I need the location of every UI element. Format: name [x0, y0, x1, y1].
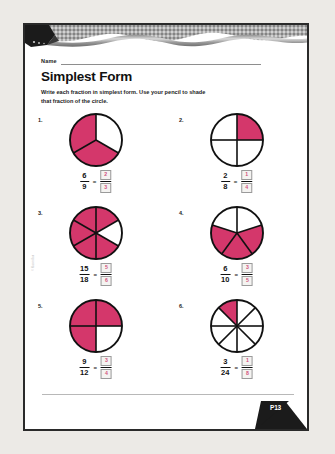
- answer-numerator-box[interactable]: 3: [101, 356, 112, 366]
- problem-5: 5. 9 12 = 3 4: [25, 295, 166, 388]
- answer-numerator-box[interactable]: 2: [100, 170, 111, 180]
- problem-2: 2. 2 8 = 1 4: [166, 109, 307, 202]
- given-denominator: 10: [220, 276, 230, 284]
- page-title: Simplest Form: [41, 69, 132, 84]
- answer-denominator-box[interactable]: 6: [101, 276, 112, 286]
- name-row: Name: [41, 57, 261, 65]
- fraction-circle-1[interactable]: [68, 112, 124, 172]
- given-fraction: 2 8: [221, 172, 230, 190]
- answer-numerator-box[interactable]: 3: [242, 263, 253, 273]
- given-numerator: 15: [79, 265, 89, 273]
- fraction-equation-4: 6 10 = 3 5: [220, 263, 253, 286]
- answer-numerator-box[interactable]: 1: [241, 170, 252, 180]
- equals-sign: =: [93, 365, 97, 371]
- instructions-text: Write each fraction in simplest form. Us…: [41, 88, 216, 105]
- answer-fraction: 3 5: [242, 263, 253, 286]
- copyright-text: © Macmillan: [32, 254, 35, 271]
- equals-sign: =: [93, 272, 97, 278]
- fraction-circle-4[interactable]: [209, 205, 265, 265]
- given-fraction: 9 12: [79, 358, 89, 376]
- problems-grid: 1. 6 9 = 2 3 2.: [25, 109, 307, 388]
- answer-numerator-box[interactable]: 5: [101, 263, 112, 273]
- page-number-label: P13: [270, 404, 281, 411]
- given-denominator: 12: [79, 369, 89, 377]
- problem-number: 6.: [179, 303, 184, 309]
- given-fraction: 3 24: [220, 358, 230, 376]
- answer-fraction-bar: [101, 367, 112, 368]
- fraction-circle-2[interactable]: [209, 112, 265, 172]
- given-denominator: 24: [220, 369, 230, 377]
- fraction-equation-2: 2 8 = 1 4: [221, 170, 253, 193]
- answer-fraction-bar: [242, 274, 253, 275]
- answer-fraction: 3 4: [101, 356, 112, 379]
- problem-number: 2.: [179, 117, 184, 123]
- given-numerator: 3: [222, 358, 228, 366]
- problem-row: 5. 9 12 = 3 4 6.: [25, 295, 307, 388]
- answer-denominator-box[interactable]: 4: [241, 183, 252, 193]
- fraction-equation-1: 6 9 = 2 3: [80, 170, 112, 193]
- given-denominator: 8: [222, 183, 228, 191]
- problem-6: 6. 3 24 = 1 8: [166, 295, 307, 388]
- problem-4: 4. 6 10 = 3 5: [166, 202, 307, 295]
- equals-sign: =: [234, 179, 238, 185]
- problem-1: 1. 6 9 = 2 3: [25, 109, 166, 202]
- answer-fraction-bar: [241, 181, 252, 182]
- given-numerator: 6: [222, 265, 228, 273]
- given-fraction: 15 18: [79, 265, 89, 283]
- page-corner-flag: [255, 395, 307, 429]
- answer-denominator-box[interactable]: 5: [242, 276, 253, 286]
- answer-numerator-box[interactable]: 1: [242, 356, 253, 366]
- problem-number: 3.: [38, 210, 43, 216]
- problem-number: 4.: [179, 210, 184, 216]
- fraction-equation-5: 9 12 = 3 4: [79, 356, 112, 379]
- given-fraction: 6 9: [80, 172, 89, 190]
- problem-3: 3. 15 18 = 5 6: [25, 202, 166, 295]
- answer-denominator-box[interactable]: 4: [101, 369, 112, 379]
- fraction-equation-3: 15 18 = 5 6: [79, 263, 112, 286]
- given-fraction: 6 10: [220, 265, 230, 283]
- problem-row: 1. 6 9 = 2 3 2.: [25, 109, 307, 202]
- answer-fraction: 1 4: [241, 170, 252, 193]
- given-numerator: 2: [222, 172, 228, 180]
- answer-denominator-box[interactable]: 3: [100, 183, 111, 193]
- fraction-circle-6[interactable]: [209, 298, 265, 358]
- given-denominator: 18: [79, 276, 89, 284]
- decorative-pencil-band: [25, 25, 307, 53]
- equals-sign: =: [93, 179, 97, 185]
- problem-number: 5.: [38, 303, 43, 309]
- answer-denominator-box[interactable]: 8: [242, 369, 253, 379]
- fraction-circle-5[interactable]: [68, 298, 124, 358]
- answer-fraction: 1 8: [242, 356, 253, 379]
- given-denominator: 9: [81, 183, 87, 191]
- answer-fraction: 5 6: [101, 263, 112, 286]
- equals-sign: =: [234, 272, 238, 278]
- answer-fraction-bar: [100, 181, 111, 182]
- given-numerator: 6: [81, 172, 87, 180]
- answer-fraction-bar: [242, 367, 253, 368]
- fraction-equation-6: 3 24 = 1 8: [220, 356, 253, 379]
- worksheet-page: Name Simplest Form Write each fraction i…: [23, 23, 309, 431]
- problem-row: 3. 15 18 = 5 6 4.: [25, 202, 307, 295]
- name-input-line[interactable]: [61, 57, 261, 65]
- answer-fraction: 2 3: [100, 170, 111, 193]
- given-numerator: 9: [81, 358, 87, 366]
- name-label: Name: [41, 58, 57, 65]
- answer-fraction-bar: [101, 274, 112, 275]
- problem-number: 1.: [38, 117, 43, 123]
- fraction-circle-3[interactable]: [68, 205, 124, 265]
- equals-sign: =: [234, 365, 238, 371]
